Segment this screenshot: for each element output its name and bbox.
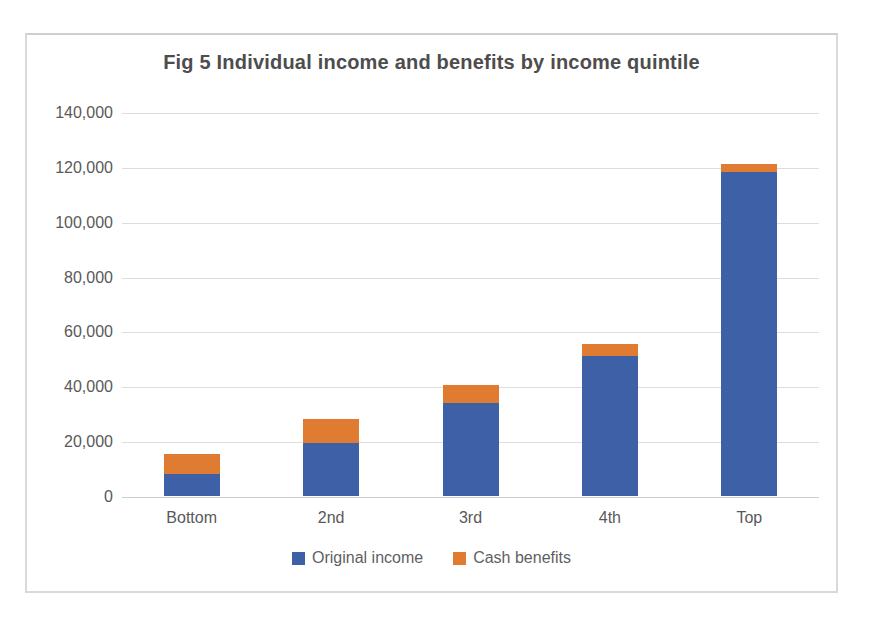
legend-label: Original income [312, 549, 423, 567]
y-tick-label: 0 [104, 488, 113, 506]
y-axis-tick-labels: 020,00040,00060,00080,000100,000120,0001… [27, 113, 113, 497]
chart-frame: Fig 5 Individual income and benefits by … [25, 33, 838, 593]
bar-segment-original-income [164, 474, 220, 496]
bar-2nd [303, 419, 359, 496]
bar-bottom [164, 454, 220, 497]
legend-swatch-icon [453, 552, 466, 565]
y-tick-label: 80,000 [64, 269, 113, 287]
bar-segment-cash-benefits [303, 419, 359, 442]
y-tick-label: 60,000 [64, 323, 113, 341]
x-category-label: 2nd [318, 509, 345, 527]
bar-segment-cash-benefits [443, 385, 499, 403]
y-tick-label: 40,000 [64, 378, 113, 396]
gridline [122, 332, 819, 333]
legend-label: Cash benefits [473, 549, 571, 567]
bar-segment-original-income [582, 356, 638, 496]
bar-segment-original-income [303, 443, 359, 496]
bar-top [721, 164, 777, 496]
gridline [122, 113, 819, 114]
bar-3rd [443, 385, 499, 496]
y-tick-label: 140,000 [55, 104, 113, 122]
x-axis-category-labels: Bottom2nd3rd4thTop [122, 509, 819, 531]
y-tick-label: 120,000 [55, 159, 113, 177]
legend-swatch-icon [292, 552, 305, 565]
y-tick-label: 100,000 [55, 214, 113, 232]
bar-segment-original-income [443, 403, 499, 496]
bar-4th [582, 344, 638, 496]
x-category-label: Bottom [166, 509, 217, 527]
x-category-label: 4th [599, 509, 621, 527]
legend-item-cash-benefits: Cash benefits [453, 549, 571, 567]
legend-item-original-income: Original income [292, 549, 423, 567]
x-category-label: 3rd [459, 509, 482, 527]
plot-area [122, 113, 819, 497]
bar-segment-cash-benefits [721, 164, 777, 172]
gridline [122, 278, 819, 279]
x-axis-line [122, 497, 819, 498]
gridline [122, 223, 819, 224]
legend: Original incomeCash benefits [27, 549, 836, 567]
bar-segment-cash-benefits [582, 344, 638, 356]
x-category-label: Top [736, 509, 762, 527]
bar-segment-cash-benefits [164, 454, 220, 475]
chart-title: Fig 5 Individual income and benefits by … [27, 51, 836, 74]
bar-segment-original-income [721, 172, 777, 496]
gridline [122, 168, 819, 169]
y-tick-label: 20,000 [64, 433, 113, 451]
